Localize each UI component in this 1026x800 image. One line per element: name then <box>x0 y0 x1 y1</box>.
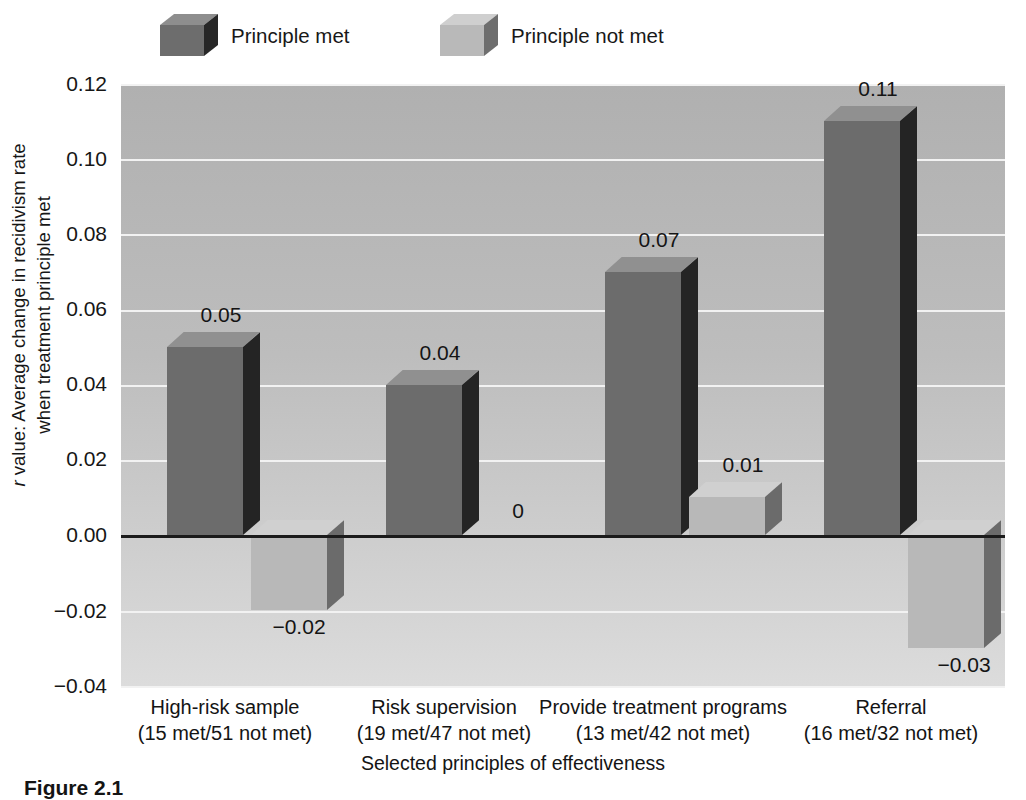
x-tick-label-provide-treatment-programs: Provide treatment programs (13 met/42 no… <box>539 694 787 747</box>
y-tick-label: 0.04 <box>66 372 107 396</box>
x-tick-line2: (15 met/51 not met) <box>138 722 313 744</box>
gridline <box>121 611 1005 613</box>
y-tick-label: 0.08 <box>66 222 107 246</box>
x-tick-line1: Referral <box>855 696 926 718</box>
y-axis-title: r value: Average change in recidivism ra… <box>7 85 57 545</box>
y-tick-label: 0.10 <box>66 147 107 171</box>
bar-met-provide-treatment-programs <box>605 272 681 535</box>
bar-value-label: −0.03 <box>937 653 990 677</box>
bar-notmet-high-risk-sample <box>251 535 327 610</box>
x-tick-line2: (19 met/47 not met) <box>357 722 532 744</box>
y-tick-label: 0.06 <box>66 297 107 321</box>
figure-caption: Figure 2.1 <box>24 776 123 800</box>
x-tick-line2: (16 met/32 not met) <box>804 722 979 744</box>
x-tick-line1: Provide treatment programs <box>539 696 787 718</box>
bar-value-label: 0 <box>512 499 524 523</box>
bar-met-risk-supervision <box>386 385 462 535</box>
y-tick-label: −0.04 <box>54 674 107 698</box>
x-tick-label-referral: Referral (16 met/32 not met) <box>804 694 979 747</box>
x-tick-label-high-risk-sample: High-risk sample (15 met/51 not met) <box>138 694 313 747</box>
cube-dark-icon <box>160 14 218 56</box>
bar-notmet-provide-treatment-programs <box>689 497 765 535</box>
y-axis-title-line1: value: Average change in recidivism rate <box>8 143 29 475</box>
x-axis-title: Selected principles of effectiveness <box>0 752 1026 775</box>
bar-value-label: 0.04 <box>420 341 461 365</box>
y-axis-title-line2: when treatment principle met <box>33 196 54 434</box>
x-tick-line1: High-risk sample <box>151 696 300 718</box>
bar-value-label: 0.01 <box>723 453 764 477</box>
bar-met-high-risk-sample <box>167 347 243 535</box>
zero-axis-line <box>121 535 1005 538</box>
y-tick-label: 0.00 <box>66 523 107 547</box>
plot-area: 0.05 −0.02 0.04 0 0.07 0.01 0.11 −0.03 <box>121 84 1005 686</box>
cube-light-icon <box>440 14 498 56</box>
bar-met-referral <box>824 121 900 535</box>
chart-legend: Principle met Principle not met <box>0 12 1026 60</box>
legend-item-principle-met: Principle met <box>160 12 350 58</box>
legend-label-principle-not-met: Principle not met <box>498 23 664 47</box>
y-tick-label: −0.02 <box>54 599 107 623</box>
bar-value-label: −0.02 <box>272 615 325 639</box>
bar-value-label: 0.05 <box>201 303 242 327</box>
y-tick-label: 0.02 <box>66 447 107 471</box>
legend-label-principle-met: Principle met <box>218 23 350 47</box>
gridline <box>121 686 1005 688</box>
bar-value-label: 0.07 <box>639 228 680 252</box>
x-tick-line2: (13 met/42 not met) <box>576 722 751 744</box>
legend-item-principle-not-met: Principle not met <box>440 12 664 58</box>
x-tick-label-risk-supervision: Risk supervision (19 met/47 not met) <box>357 694 532 747</box>
x-axis: High-risk sample (15 met/51 not met) Ris… <box>121 694 1005 750</box>
x-tick-line1: Risk supervision <box>371 696 517 718</box>
bar-value-label: 0.11 <box>858 77 897 101</box>
y-tick-label: 0.12 <box>66 72 107 96</box>
bar-notmet-referral <box>908 535 984 648</box>
